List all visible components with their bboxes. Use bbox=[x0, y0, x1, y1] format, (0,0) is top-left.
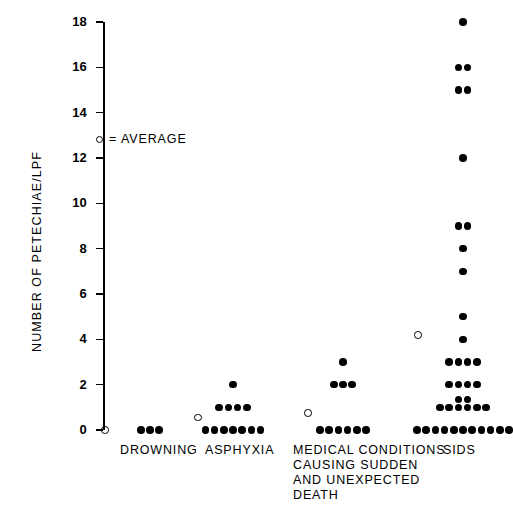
data-point bbox=[445, 404, 453, 412]
data-point bbox=[459, 426, 467, 434]
data-point bbox=[243, 404, 251, 412]
data-point bbox=[362, 426, 370, 434]
data-point bbox=[473, 358, 481, 366]
data-point bbox=[464, 396, 472, 404]
data-point bbox=[455, 358, 463, 366]
data-point bbox=[445, 358, 453, 366]
data-point bbox=[455, 86, 463, 94]
data-point bbox=[473, 381, 481, 389]
data-point bbox=[335, 426, 343, 434]
data-point bbox=[432, 426, 440, 434]
legend-label: = AVERAGE bbox=[109, 132, 187, 146]
data-point bbox=[348, 381, 356, 389]
data-point bbox=[225, 404, 233, 412]
petechiae-scatter-chart: 024681012141618 NUMBER OF PETECHIAE/LPF … bbox=[0, 0, 513, 514]
y-axis-tick bbox=[96, 112, 103, 114]
y-axis-tick bbox=[96, 384, 103, 386]
data-point bbox=[146, 426, 154, 434]
data-point bbox=[339, 381, 347, 389]
average-marker bbox=[414, 331, 422, 339]
data-point bbox=[234, 404, 242, 412]
data-point bbox=[482, 404, 490, 412]
y-axis-tick bbox=[96, 21, 103, 23]
data-point bbox=[459, 336, 467, 344]
data-point bbox=[137, 426, 145, 434]
data-point bbox=[436, 404, 444, 412]
data-point bbox=[455, 64, 463, 72]
y-axis-tick-label: 12 bbox=[59, 151, 87, 164]
data-point bbox=[464, 381, 472, 389]
category-label-asphyxia: ASPHYXIA bbox=[205, 443, 274, 458]
data-point bbox=[220, 426, 228, 434]
data-point bbox=[238, 426, 246, 434]
data-point bbox=[211, 426, 219, 434]
data-point bbox=[459, 245, 467, 253]
y-axis-tick-label: 0 bbox=[59, 423, 87, 436]
data-point bbox=[473, 404, 481, 412]
data-point bbox=[459, 313, 467, 321]
average-marker bbox=[101, 426, 109, 434]
average-marker bbox=[194, 414, 202, 422]
data-point bbox=[229, 381, 237, 389]
average-marker-icon bbox=[96, 136, 103, 143]
y-axis-tick bbox=[96, 67, 103, 69]
data-point bbox=[344, 426, 352, 434]
data-point bbox=[464, 404, 472, 412]
data-point bbox=[202, 426, 210, 434]
data-point bbox=[459, 18, 467, 26]
data-point bbox=[353, 426, 361, 434]
data-point bbox=[468, 426, 476, 434]
y-axis-tick-label: 2 bbox=[59, 378, 87, 391]
data-point bbox=[487, 426, 495, 434]
data-point bbox=[455, 222, 463, 230]
data-point bbox=[445, 381, 453, 389]
y-axis-tick-label: 16 bbox=[59, 60, 87, 73]
category-label-drowning: DROWNING bbox=[120, 443, 198, 458]
data-point bbox=[316, 426, 324, 434]
data-point bbox=[330, 381, 338, 389]
data-point bbox=[496, 426, 504, 434]
y-axis-tick-label: 8 bbox=[59, 242, 87, 255]
category-label-sids: SIDS bbox=[443, 443, 476, 458]
data-point bbox=[450, 426, 458, 434]
y-axis-tick bbox=[96, 293, 103, 295]
category-label-medical-conditions: MEDICAL CONDITIONS CAUSING SUDDEN AND UN… bbox=[293, 443, 445, 503]
y-axis-tick bbox=[96, 203, 103, 205]
legend: = AVERAGE bbox=[96, 132, 187, 146]
data-point bbox=[257, 426, 265, 434]
data-point bbox=[413, 426, 421, 434]
y-axis-tick-label: 18 bbox=[59, 15, 87, 28]
y-axis-tick-label: 10 bbox=[59, 196, 87, 209]
data-point bbox=[441, 426, 449, 434]
data-point bbox=[478, 426, 486, 434]
data-point bbox=[455, 396, 463, 404]
y-axis-tick bbox=[96, 157, 103, 159]
data-point bbox=[459, 154, 467, 162]
data-point bbox=[459, 268, 467, 276]
data-point bbox=[464, 222, 472, 230]
data-point bbox=[455, 404, 463, 412]
data-point bbox=[229, 426, 237, 434]
data-point bbox=[339, 358, 347, 366]
average-marker bbox=[304, 409, 312, 417]
y-axis-line bbox=[103, 22, 105, 430]
data-point bbox=[464, 358, 472, 366]
y-axis-tick bbox=[96, 339, 103, 341]
y-axis-tick-label: 14 bbox=[59, 106, 87, 119]
data-point bbox=[505, 426, 513, 434]
data-point bbox=[248, 426, 256, 434]
data-point bbox=[464, 64, 472, 72]
data-point bbox=[325, 426, 333, 434]
data-point bbox=[215, 404, 223, 412]
y-axis-tick-label: 6 bbox=[59, 287, 87, 300]
data-point bbox=[422, 426, 430, 434]
data-point bbox=[455, 381, 463, 389]
y-axis-tick bbox=[96, 248, 103, 250]
data-point bbox=[464, 86, 472, 94]
y-axis-tick-label: 4 bbox=[59, 332, 87, 345]
data-point bbox=[155, 426, 163, 434]
y-axis-title: NUMBER OF PETECHIAE/LPF bbox=[30, 151, 44, 352]
